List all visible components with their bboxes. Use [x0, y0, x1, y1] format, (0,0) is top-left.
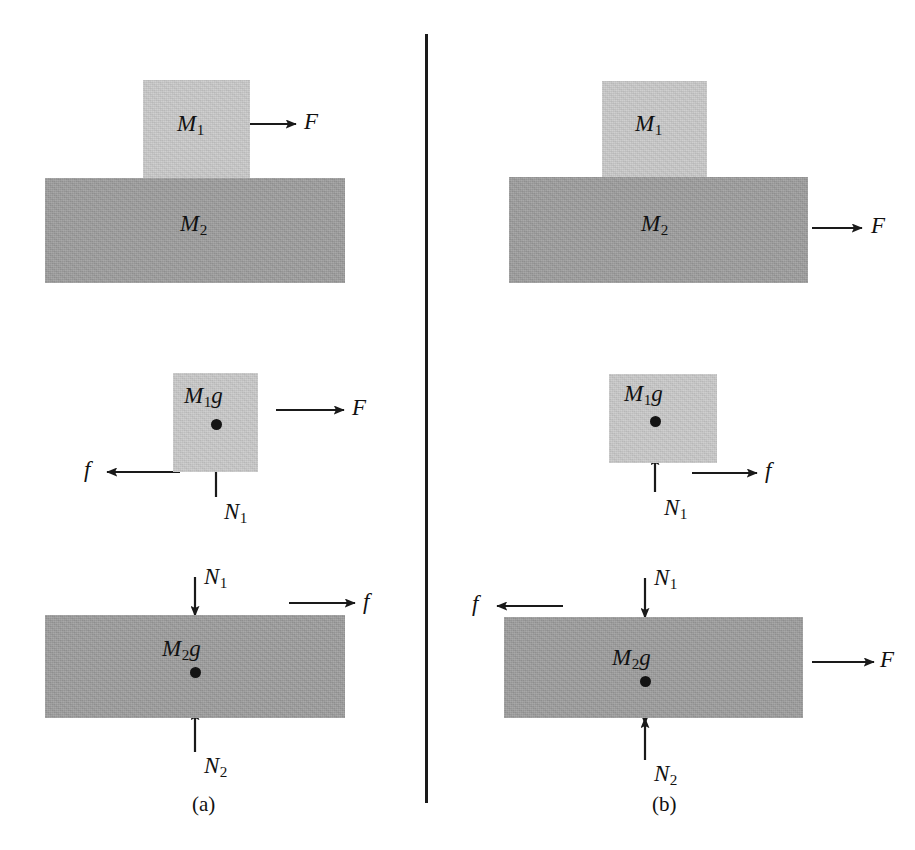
panel-b-situation-label-m1: M1: [635, 112, 662, 137]
physics-figure: M1 M2 F M1g N1 f F N1 M2g N2 f (a) M1 M2…: [0, 0, 915, 850]
panel-a-fbd-m1-label-friction: f: [84, 458, 90, 481]
panel-b-fbd-m2-cg-dot: [640, 676, 651, 687]
panel-a-fbd-m1-cg-dot: [211, 419, 222, 430]
panel-b-fbd-m2-block: [504, 617, 803, 718]
panel-b-caption: (b): [652, 792, 677, 817]
panel-a-fbd-m1-label-force: F: [352, 396, 366, 419]
arrow-layer: [0, 0, 915, 850]
panel-b-fbd-m2-label-force: F: [880, 648, 894, 671]
panel-a-fbd-m2-label-weight: M2g: [162, 637, 201, 662]
panel-b-situation-label-m2: M2: [641, 212, 668, 237]
panel-a-fbd-m2-label-normal-top: N1: [204, 565, 227, 590]
panel-b-fbd-m2-label-normal-bottom: N2: [654, 762, 677, 787]
panel-b-fbd-m2-label-weight: M2g: [612, 646, 651, 671]
panel-b-fbd-m1-label-normal: N1: [664, 496, 687, 521]
panel-b-situation-label-force: F: [871, 214, 885, 237]
panel-a-fbd-m2-cg-dot: [190, 667, 201, 678]
panel-a-situation-label-force: F: [304, 110, 318, 133]
panel-a-fbd-m1-label-normal: N1: [224, 500, 247, 525]
panel-b-fbd-m1-label-weight: M1g: [624, 382, 663, 407]
panel-a-caption: (a): [192, 792, 215, 817]
panel-b-fbd-m2-label-normal-top: N1: [654, 566, 677, 591]
panel-a-fbd-m2-label-normal-bottom: N2: [204, 754, 227, 779]
panel-divider: [425, 34, 428, 803]
panel-a-situation-label-m2: M2: [180, 212, 207, 237]
panel-a-fbd-m1-label-weight: M1g: [184, 384, 223, 409]
panel-a-situation-label-m1: M1: [177, 112, 204, 137]
panel-a-fbd-m2-label-friction: f: [363, 590, 369, 613]
panel-b-fbd-m1-cg-dot: [650, 416, 661, 427]
panel-b-fbd-m1-label-friction: f: [765, 459, 771, 482]
panel-b-fbd-m2-label-friction: f: [472, 592, 478, 615]
